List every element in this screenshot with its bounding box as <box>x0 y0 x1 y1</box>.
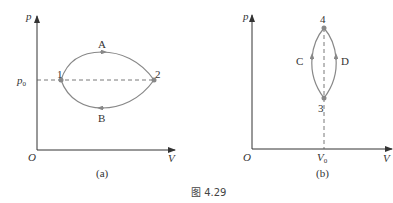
path-b-curve <box>61 80 154 108</box>
panel-a-caption: (a) <box>96 168 108 179</box>
point-2-label: 2 <box>155 69 161 80</box>
point-4-label: 4 <box>320 14 326 25</box>
v0-symbol: V <box>317 151 324 163</box>
panel-b-origin-label: O <box>243 152 251 163</box>
path-b-label: B <box>98 113 105 124</box>
path-d-label: D <box>341 56 349 67</box>
panel-b-caption: (b) <box>316 168 329 179</box>
figure-caption: 图 4.29 <box>191 184 226 199</box>
diagram-canvas <box>0 0 393 203</box>
panel-b-x-axis-label: V <box>383 153 390 164</box>
point-3-label: 3 <box>318 103 324 114</box>
panel-a-axes <box>37 16 175 150</box>
v0-subscript: 0 <box>324 157 328 165</box>
p0-subscript: 0 <box>23 80 27 88</box>
path-d-curve <box>324 28 336 98</box>
path-c-curve <box>312 28 324 98</box>
path-c-label: C <box>296 56 303 67</box>
panel-a-y-axis-label: p <box>26 11 32 22</box>
panel-a-origin-label: O <box>28 152 36 163</box>
v0-label: V0 <box>317 152 327 165</box>
panel-b-y-axis-label: p <box>243 11 249 22</box>
panel-b-axes <box>252 15 392 149</box>
point-3 <box>322 96 327 101</box>
point-1-label: 1 <box>57 69 63 80</box>
path-a-curve <box>61 52 154 80</box>
point-4 <box>322 26 327 31</box>
p0-label: p0 <box>17 75 26 88</box>
panel-a-x-axis-label: V <box>168 153 175 164</box>
path-a-label: A <box>98 39 106 50</box>
